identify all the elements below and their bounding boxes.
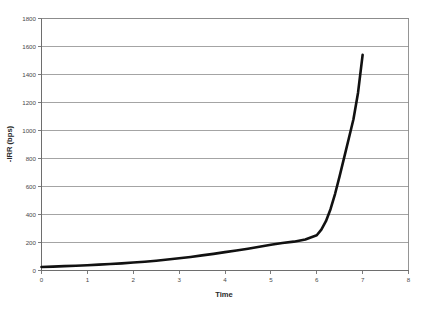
x-tick-label: 6 (315, 276, 319, 283)
y-tick-label: 1400 (22, 71, 36, 78)
y-tick-label: 200 (26, 239, 37, 246)
chart-figure: 020040060080010001200140016001800 012345… (0, 0, 425, 310)
y-tick-label: 1200 (22, 99, 36, 106)
line-chart: 020040060080010001200140016001800 012345… (0, 0, 425, 310)
y-tick-label: 1800 (22, 15, 36, 22)
x-tick-label: 4 (223, 276, 227, 283)
x-tick-label: 7 (361, 276, 365, 283)
x-tick-label: 1 (86, 276, 90, 283)
y-axis-title: -IRR (bps) (5, 125, 14, 162)
x-tick-label: 3 (177, 276, 181, 283)
y-tick-label: 1600 (22, 43, 36, 50)
x-tick-label: 2 (132, 276, 136, 283)
y-tick-label: 600 (26, 183, 37, 190)
y-tick-label: 800 (26, 155, 37, 162)
x-axis-title: Time (215, 290, 233, 299)
y-tick-label: 400 (26, 211, 37, 218)
x-tick-label: 8 (407, 276, 411, 283)
y-tick-label: 0 (33, 267, 37, 274)
y-tick-label: 1000 (22, 127, 36, 134)
x-tick-label: 0 (40, 276, 44, 283)
x-tick-label: 5 (269, 276, 273, 283)
